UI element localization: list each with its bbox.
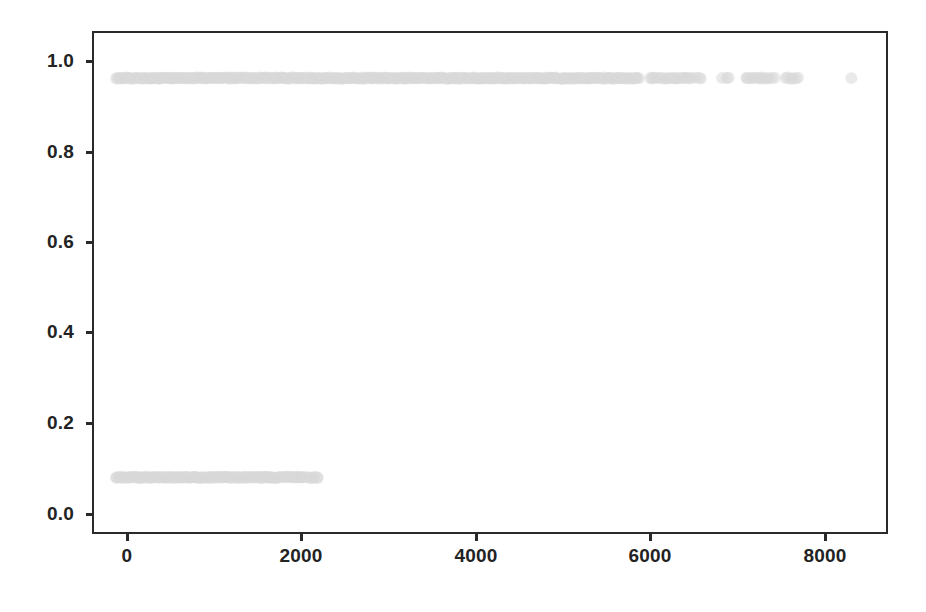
- xtick-label: 8000: [803, 546, 846, 565]
- ytick-label: 0.6: [16, 232, 74, 251]
- ytick-label: 0.4: [16, 322, 74, 341]
- ytick-label-wrap-0.0: 0.0: [12, 504, 74, 524]
- xtick-label: 6000: [628, 546, 671, 565]
- ytick-label-wrap-0.6: 0.6: [12, 232, 74, 252]
- ytick-label: 1.0: [16, 51, 74, 70]
- xtick-mark: [649, 534, 652, 541]
- ytick-label: 0.0: [16, 504, 74, 523]
- scatter-plot-figure: 1.0 0.8 0.6 0.4 0.2 0.0 0 2000 4000 6000…: [0, 0, 926, 612]
- ytick-label-wrap-0.4: 0.4: [12, 322, 74, 342]
- xtick-mark: [475, 534, 478, 541]
- xtick-mark: [824, 534, 827, 541]
- ytick-label-wrap-1.0: 1.0: [12, 51, 74, 71]
- ytick-label-wrap-0.2: 0.2: [12, 413, 74, 433]
- plot-frame: [92, 31, 888, 534]
- xtick-mark: [126, 534, 129, 541]
- xtick-label: 4000: [454, 546, 497, 565]
- xtick-label: 0: [122, 546, 133, 565]
- scatter-markers-canvas: [94, 33, 886, 532]
- xtick-label: 2000: [279, 546, 322, 565]
- ytick-label-wrap-0.8: 0.8: [12, 142, 74, 162]
- xtick-mark: [300, 534, 303, 541]
- ytick-label: 0.2: [16, 413, 74, 432]
- ytick-label: 0.8: [16, 142, 74, 161]
- plot-area: [94, 33, 886, 532]
